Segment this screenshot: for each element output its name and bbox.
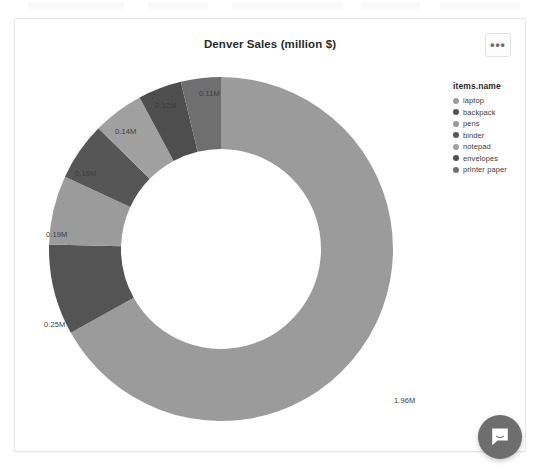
legend-swatch-icon xyxy=(453,155,459,161)
legend-item-label: envelopes xyxy=(463,154,498,163)
legend-item-label: pens xyxy=(463,119,480,128)
donut-chart-plot: 1.96M 0.25M 0.19M 0.16M 0.14M 0.12M 0.11… xyxy=(15,53,445,451)
top-artifact-4 xyxy=(362,2,420,9)
top-artifact-1 xyxy=(28,2,124,9)
slice-label-binder: 0.16M xyxy=(75,169,96,178)
legend-item-label: backpack xyxy=(463,108,496,117)
legend-item-pens[interactable]: pens xyxy=(453,118,533,129)
page-title: Denver Sales (million $) xyxy=(15,38,525,50)
legend-item-label: binder xyxy=(463,131,484,140)
donut-chart-svg[interactable] xyxy=(41,69,401,429)
top-artifact-3 xyxy=(232,2,342,9)
chart-legend: items.name laptopbackpackpensbindernotep… xyxy=(453,81,533,176)
legend-title: items.name xyxy=(453,81,533,91)
slice-label-envelopes: 0.12M xyxy=(155,101,176,110)
legend-item-backpack[interactable]: backpack xyxy=(453,107,533,118)
slice-label-printerpaper: 0.11M xyxy=(199,89,220,98)
legend-swatch-icon xyxy=(453,109,459,115)
legend-item-binder[interactable]: binder xyxy=(453,130,533,141)
slice-label-laptop: 1.96M xyxy=(394,396,415,405)
legend-item-label: printer paper xyxy=(463,165,507,174)
legend-item-list: laptopbackpackpensbindernotepadenvelopes… xyxy=(453,95,533,175)
chart-card: Denver Sales (million $) ••• 1.96M 0.25M… xyxy=(14,18,526,452)
legend-item-printer-paper[interactable]: printer paper xyxy=(453,164,533,175)
legend-item-label: laptop xyxy=(463,96,484,105)
legend-swatch-icon xyxy=(453,167,459,173)
chat-bubble-icon xyxy=(489,426,511,448)
legend-item-notepad[interactable]: notepad xyxy=(453,141,533,152)
legend-swatch-icon xyxy=(453,98,459,104)
card-menu-button[interactable]: ••• xyxy=(485,33,511,57)
ellipsis-icon: ••• xyxy=(490,42,506,48)
slice-label-backpack: 0.25M xyxy=(44,320,65,329)
donut-slice-group xyxy=(49,77,393,421)
chat-launcher-button[interactable] xyxy=(478,415,522,459)
top-artifact-5 xyxy=(440,2,520,9)
legend-swatch-icon xyxy=(453,132,459,138)
slice-label-notepad: 0.14M xyxy=(115,127,136,136)
legend-swatch-icon xyxy=(453,144,459,150)
legend-item-envelopes[interactable]: envelopes xyxy=(453,153,533,164)
slice-label-pens: 0.19M xyxy=(46,230,67,239)
legend-item-label: notepad xyxy=(463,142,491,151)
legend-swatch-icon xyxy=(453,121,459,127)
legend-item-laptop[interactable]: laptop xyxy=(453,95,533,106)
top-artifact-2 xyxy=(148,2,208,9)
